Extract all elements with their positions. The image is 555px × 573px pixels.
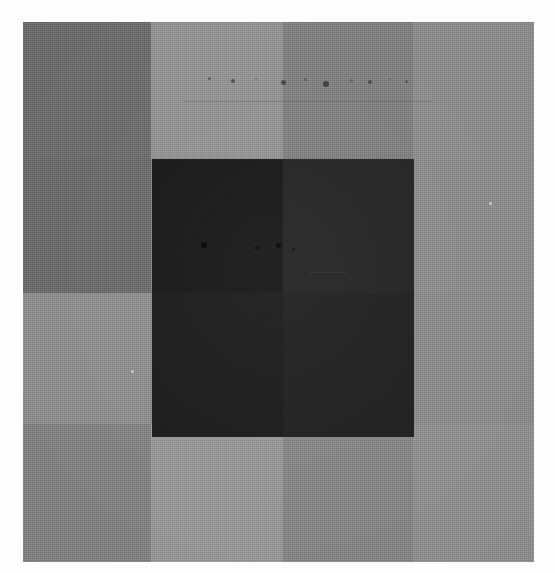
scratch-block-horizontal xyxy=(308,272,348,273)
patch-r3c1 xyxy=(23,293,151,424)
speck-upper-band-7 xyxy=(350,79,353,82)
central-dark-block xyxy=(152,159,414,437)
patch-r4c3 xyxy=(283,424,413,562)
speck-upper-band-1 xyxy=(208,77,211,80)
scanned-plate xyxy=(23,22,534,562)
speck-block-1 xyxy=(201,242,207,248)
speck-left-field-1 xyxy=(131,370,134,373)
patch-r4c1 xyxy=(23,424,151,562)
dark-block-upper-left xyxy=(152,159,283,293)
speck-upper-band-3 xyxy=(255,78,257,80)
patch-r4c2 xyxy=(151,424,283,562)
patch-r2c4 xyxy=(413,159,534,293)
speck-upper-band-9 xyxy=(389,78,391,80)
speck-upper-band-2 xyxy=(231,79,235,83)
patch-r1c2 xyxy=(151,22,283,159)
dark-block-lower-left xyxy=(152,293,283,437)
patch-r4c4 xyxy=(413,424,534,562)
patch-r2c1 xyxy=(23,159,151,293)
patch-r1c1 xyxy=(23,22,151,159)
speck-right-field-1 xyxy=(489,202,492,205)
speck-upper-band-6 xyxy=(323,81,329,87)
speck-block-3 xyxy=(276,243,281,248)
scratch-upper-horizontal xyxy=(183,101,433,102)
patch-r1c3 xyxy=(283,22,413,159)
dark-block-upper-right xyxy=(283,159,414,293)
patch-r3c4 xyxy=(413,293,534,424)
patch-r1c4 xyxy=(413,22,534,159)
speck-upper-band-5 xyxy=(304,78,307,81)
speck-upper-band-10 xyxy=(405,80,408,83)
speck-upper-band-4 xyxy=(281,80,286,85)
scan-page xyxy=(0,0,555,573)
dark-block-lower-right xyxy=(283,293,414,437)
speck-upper-band-8 xyxy=(368,80,372,84)
speck-block-2 xyxy=(255,246,259,250)
speck-block-4 xyxy=(292,248,295,251)
